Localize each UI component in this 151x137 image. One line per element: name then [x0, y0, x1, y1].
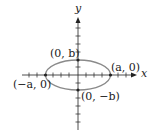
- y-axis-arrow-icon: [76, 17, 81, 23]
- y-axis: [76, 17, 81, 130]
- point-bottom-covertex: [76, 88, 79, 91]
- label-left-vertex: (−a, 0): [13, 79, 51, 90]
- x-axis-label: x: [141, 68, 147, 79]
- label-right-vertex: (a, 0): [111, 62, 140, 73]
- point-left-vertex: [44, 73, 47, 76]
- label-bottom-covertex: (0, −b): [81, 91, 120, 102]
- y-axis-label: y: [75, 3, 81, 14]
- label-top-covertex: (0, b): [50, 48, 80, 59]
